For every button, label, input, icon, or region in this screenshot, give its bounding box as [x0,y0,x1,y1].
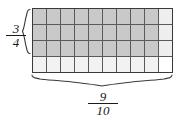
vertical-fraction-label: 3 4 [6,22,26,49]
grid-cell-r3c5 [89,41,103,57]
grid-cell-r3c9 [145,41,159,57]
grid-cell-r2c2 [47,25,61,41]
grid-cell-r3c10 [159,41,173,57]
grid-cell-r1c8 [131,9,145,25]
grid-cell-r4c4 [75,57,89,73]
grid-cell-r2c7 [117,25,131,41]
grid-cell-r3c3 [61,41,75,57]
grid-cell-r1c10 [159,9,173,25]
vertical-fraction-denominator: 4 [6,36,26,49]
grid-cell-r2c5 [89,25,103,41]
grid-cell-r3c7 [117,41,131,57]
horizontal-fraction-denominator: 10 [88,104,118,117]
grid-cell-r1c7 [117,9,131,25]
vertical-fraction-numerator: 3 [6,22,26,35]
grid-cell-r2c1 [33,25,47,41]
grid-cell-r1c2 [47,9,61,25]
grid-cell-r3c2 [47,41,61,57]
grid-cell-r3c6 [103,41,117,57]
grid-cell-r1c3 [61,9,75,25]
grid-cell-r4c6 [103,57,117,73]
grid-cell-r4c8 [131,57,145,73]
grid-cell-r2c9 [145,25,159,41]
grid-cell-r4c3 [61,57,75,73]
grid-cell-r1c5 [89,9,103,25]
grid-cell-r2c8 [131,25,145,41]
grid-cell-r2c3 [61,25,75,41]
grid-cell-r4c7 [117,57,131,73]
grid-cell-r4c10 [159,57,173,73]
grid-cell-r3c8 [131,41,145,57]
grid-cell-r2c10 [159,25,173,41]
grid-cell-r4c1 [33,57,47,73]
horizontal-fraction-numerator: 9 [88,90,118,103]
grid-cell-r1c9 [145,9,159,25]
grid-cell-r2c4 [75,25,89,41]
horizontal-fraction-label: 9 10 [88,90,118,117]
grid-cell-r4c2 [47,57,61,73]
horizontal-brace [32,75,172,86]
grid-cell-r4c9 [145,57,159,73]
grid-cell-r3c1 [33,41,47,57]
grid-cell-r4c5 [89,57,103,73]
grid-cell-r3c4 [75,41,89,57]
grid-cell-r2c6 [103,25,117,41]
grid-cell-r1c6 [103,9,117,25]
grid-cell-r1c1 [33,9,47,25]
grid-cell-r1c4 [75,9,89,25]
